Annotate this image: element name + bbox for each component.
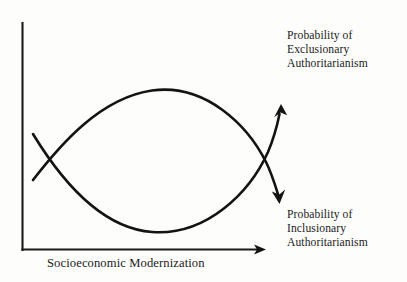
curve-exclusionary [33,114,280,232]
label-inclusionary-authoritarianism: Probability of Inclusionary Authoritaria… [287,208,368,251]
label-inclusionary-line-2: Inclusionary [287,222,368,236]
label-inclusionary-line-3: Authoritarianism [287,236,368,250]
inclusionary-arrow-down-icon [272,189,285,204]
label-inclusionary-line-1: Probability of [287,208,368,222]
label-exclusionary-line-3: Authoritarianism [287,57,368,71]
exclusionary-arrow-up-icon [274,104,287,117]
figure-root: Probability of Exclusionary Authoritaria… [0,0,407,282]
curve-inclusionary [33,90,279,196]
label-exclusionary-line-1: Probability of [287,29,368,43]
label-exclusionary-line-2: Exclusionary [287,43,368,57]
x-axis-label: Socioeconomic Modernization [47,256,205,270]
label-exclusionary-authoritarianism: Probability of Exclusionary Authoritaria… [287,29,368,72]
